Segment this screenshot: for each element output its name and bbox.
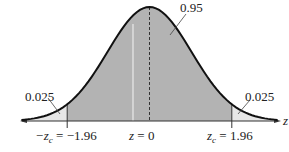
right-critical-label: zc = 1.96 [206, 128, 253, 145]
mean-value: = 0 [134, 128, 154, 143]
left-tail-label: 0.025 [25, 89, 54, 104]
right-crit-value: = 1.96 [216, 128, 253, 143]
normal-distribution-chart: 0.95 0.025 0.025 z −zc = −1.96 z = 0 zc … [0, 0, 289, 152]
mean-label: z = 0 [128, 128, 154, 143]
left-critical-label: −zc = −1.96 [35, 128, 97, 145]
axis-variable-label: z [282, 113, 288, 128]
center-area-label: 0.95 [180, 0, 203, 15]
left-crit-value: = −1.96 [53, 128, 97, 143]
left-crit-symbol: −z [35, 128, 49, 143]
right-tail-label: 0.025 [245, 89, 274, 104]
